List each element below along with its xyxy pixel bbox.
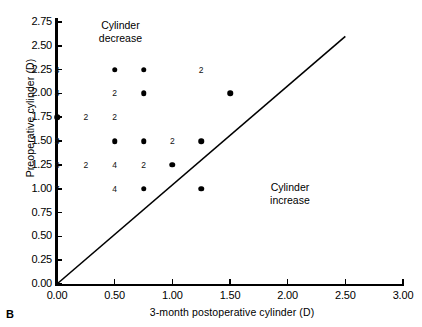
cylinder-decrease-line2: decrease	[80, 32, 160, 45]
y-tick-label: 0.25	[12, 253, 52, 265]
data-point-marker	[170, 162, 176, 168]
y-tick-label: 0.00	[12, 277, 52, 289]
x-axis-line	[55, 284, 404, 286]
data-point-marker	[141, 138, 147, 144]
data-point-count-label: 2	[170, 137, 175, 146]
y-tick-mark	[57, 236, 62, 238]
x-tick-mark	[114, 279, 116, 284]
data-point-marker	[198, 186, 204, 192]
x-tick-mark	[345, 279, 347, 284]
y-tick-label: 0.75	[12, 206, 52, 218]
x-tick-label: 2.00	[266, 289, 310, 301]
x-tick-mark	[56, 279, 58, 284]
x-tick-mark	[402, 279, 404, 284]
data-point-count-label: 8	[55, 161, 60, 170]
x-tick-mark	[229, 279, 231, 284]
x-tick-mark	[172, 279, 174, 284]
data-point-count-label: 3	[55, 137, 60, 146]
data-point-marker	[198, 138, 204, 144]
y-tick-label: 1.00	[12, 182, 52, 194]
cylinder-decrease: Cylinderdecrease	[80, 19, 160, 45]
data-point-marker	[141, 91, 147, 97]
x-tick-label: 1.00	[150, 289, 194, 301]
y-tick-label: 1.75	[12, 110, 52, 122]
y-tick-label: 1.25	[12, 158, 52, 170]
scatter-plot-figure: B Preoperative cylinder (D) 3-month post…	[0, 0, 422, 327]
data-point-marker	[141, 186, 147, 192]
x-tick-label: 0.50	[93, 289, 137, 301]
cylinder-decrease-line1: Cylinder	[80, 19, 160, 32]
data-point-count-label: 4	[55, 89, 60, 98]
y-tick-mark	[57, 45, 62, 47]
y-tick-label: 1.50	[12, 134, 52, 146]
data-point-marker	[112, 67, 118, 73]
data-point-count-label: 2	[83, 161, 88, 170]
y-tick-label: 2.75	[12, 15, 52, 27]
cylinder-increase: Cylinderincrease	[250, 181, 330, 207]
data-point-count-label: 7	[55, 184, 60, 193]
data-point-count-label: 2	[83, 113, 88, 122]
y-axis-line	[55, 18, 58, 286]
x-tick-label: 1.50	[208, 289, 252, 301]
panel-label: B	[6, 308, 14, 320]
data-point-count-label: 4	[112, 161, 117, 170]
data-point-count-label: 4	[55, 65, 60, 74]
data-point-marker	[54, 115, 60, 121]
y-tick-label: 2.25	[12, 63, 52, 75]
data-point-count-label: 2	[141, 161, 146, 170]
cylinder-increase-line1: Cylinder	[250, 181, 330, 194]
data-point-marker	[227, 91, 233, 97]
y-tick-label: 2.50	[12, 39, 52, 51]
data-point-marker	[112, 138, 118, 144]
x-tick-label: 3.00	[381, 289, 422, 301]
y-tick-mark	[57, 21, 62, 23]
data-point-count-label: 4	[112, 184, 117, 193]
data-point-count-label: 2	[199, 65, 204, 74]
x-tick-label: 0.00	[35, 289, 79, 301]
x-axis-title: 3-month postoperative cylinder (D)	[57, 306, 407, 318]
cylinder-increase-line2: increase	[250, 194, 330, 207]
x-tick-label: 2.50	[323, 289, 367, 301]
x-tick-mark	[287, 279, 289, 284]
y-tick-label: 2.00	[12, 86, 52, 98]
reference-line-y-equals-x	[0, 0, 422, 327]
y-tick-mark	[57, 212, 62, 214]
y-tick-label: 0.50	[12, 229, 52, 241]
y-tick-mark	[57, 259, 62, 261]
data-point-marker	[141, 67, 147, 73]
data-point-count-label: 2	[112, 89, 117, 98]
data-point-count-label: 2	[112, 113, 117, 122]
